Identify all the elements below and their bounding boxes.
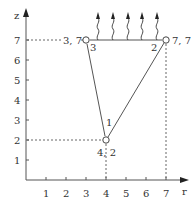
node-1-coord: 4, 2 <box>97 147 116 158</box>
axes: z r 1 2 3 4 5 6 7 <box>14 8 189 199</box>
r-tick-label: 4 <box>103 188 109 199</box>
wavy-arrow-icon <box>127 18 129 40</box>
z-axis-label: z <box>14 10 19 21</box>
wavy-arrow-icon <box>112 18 114 40</box>
r-tick-label: 2 <box>63 188 69 199</box>
node-1 <box>103 137 109 143</box>
arrowhead-icon <box>96 12 100 19</box>
z-tick-label: 3 <box>14 115 20 126</box>
wavy-arrow-icon <box>141 18 143 40</box>
wavy-arrow-icon <box>156 18 158 40</box>
node-3 <box>83 37 89 43</box>
z-ticks: 1 2 3 4 5 6 7 <box>14 35 29 166</box>
r-tick-label: 5 <box>123 188 129 199</box>
node-2 <box>163 37 169 43</box>
triangle-edges <box>87 40 164 137</box>
node-3-id: 3 <box>90 42 96 53</box>
z-tick-label: 5 <box>14 75 20 86</box>
r-tick-label: 6 <box>143 188 149 199</box>
flux-arrows <box>97 18 158 40</box>
edge-1-2 <box>108 43 164 137</box>
triangle-element-diagram: z r 1 2 3 4 5 6 7 <box>0 0 196 207</box>
node-2-coord: 7, 7 <box>172 35 191 46</box>
z-tick-label: 7 <box>14 35 20 46</box>
z-tick-label: 4 <box>14 95 20 106</box>
wavy-arrow-icon <box>97 18 99 40</box>
node-2-id: 2 <box>151 42 157 53</box>
z-tick-label: 2 <box>14 135 20 146</box>
node-3-coord: 3, 7 <box>63 35 82 46</box>
r-tick-label: 7 <box>163 188 169 199</box>
r-axis-label: r <box>182 186 187 197</box>
arrowhead-icon <box>126 12 130 19</box>
r-tick-label: 3 <box>83 188 89 199</box>
arrowhead-icon <box>155 12 159 19</box>
arrowhead-icon <box>111 12 115 19</box>
arrowhead-icon <box>140 12 144 19</box>
r-axis-arrow-icon <box>180 177 189 183</box>
flux-arrowheads <box>96 12 159 19</box>
z-tick-label: 1 <box>14 155 20 166</box>
z-tick-label: 6 <box>14 55 20 66</box>
r-tick-label: 1 <box>43 188 49 199</box>
z-axis-arrow-icon <box>23 8 29 17</box>
edge-3-1 <box>87 44 105 136</box>
node-1-id: 1 <box>106 117 112 128</box>
